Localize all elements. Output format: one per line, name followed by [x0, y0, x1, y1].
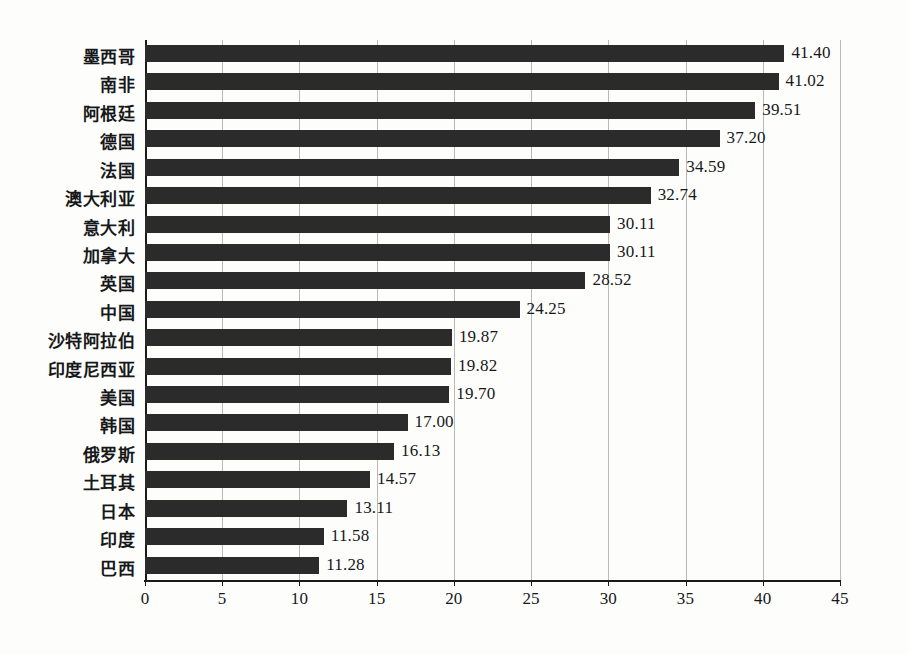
- bar-row: 11.58: [145, 523, 840, 551]
- bar-value-label: 13.11: [354, 498, 393, 518]
- bar-row: 30.11: [145, 211, 840, 239]
- category-label: 印度: [0, 526, 135, 551]
- category-label: 英国: [0, 270, 135, 295]
- bar-row: 41.40: [145, 40, 840, 68]
- bar-value-label: 39.51: [762, 100, 801, 120]
- category-label: 印度尼西亚: [0, 356, 135, 381]
- x-axis-tick: [531, 580, 532, 586]
- gridline: [840, 40, 841, 580]
- bar[interactable]: [145, 73, 779, 90]
- bar-value-label: 41.40: [791, 43, 830, 63]
- bar-value-label: 16.13: [401, 441, 440, 461]
- category-label: 阿根廷: [0, 100, 135, 125]
- bar-row: 19.87: [145, 324, 840, 352]
- bar-value-label: 34.59: [686, 157, 725, 177]
- bar[interactable]: [145, 130, 720, 147]
- x-axis-tick-label: 45: [810, 589, 870, 609]
- x-axis-tick-label: 15: [347, 589, 407, 609]
- x-axis-tick: [299, 580, 300, 586]
- bar[interactable]: [145, 557, 319, 574]
- bar[interactable]: [145, 414, 408, 431]
- category-label: 墨西哥: [0, 43, 135, 68]
- category-label: 澳大利亚: [0, 185, 135, 210]
- bar[interactable]: [145, 159, 679, 176]
- category-label: 南非: [0, 71, 135, 96]
- bar[interactable]: [145, 301, 520, 318]
- bar-value-label: 41.02: [786, 71, 825, 91]
- x-axis-line: [144, 580, 841, 582]
- bar[interactable]: [145, 471, 370, 488]
- bar[interactable]: [145, 528, 324, 545]
- bar[interactable]: [145, 500, 347, 517]
- bar-row: 28.52: [145, 267, 840, 295]
- bar[interactable]: [145, 244, 610, 261]
- bar-row: 24.25: [145, 296, 840, 324]
- bar-row: 34.59: [145, 154, 840, 182]
- category-label: 韩国: [0, 412, 135, 437]
- bar-row: 11.28: [145, 552, 840, 580]
- x-axis-tick: [763, 580, 764, 586]
- bar-row: 19.70: [145, 381, 840, 409]
- x-axis-tick-label: 5: [192, 589, 252, 609]
- bar-row: 14.57: [145, 466, 840, 494]
- x-axis-tick-label: 40: [733, 589, 793, 609]
- bar-value-label: 17.00: [415, 412, 454, 432]
- category-label: 日本: [0, 498, 135, 523]
- x-axis-tick: [377, 580, 378, 586]
- category-axis: 墨西哥南非阿根廷德国法国澳大利亚意大利加拿大英国中国沙特阿拉伯印度尼西亚美国韩国…: [0, 40, 135, 580]
- bar-value-label: 19.70: [456, 384, 495, 404]
- category-label: 意大利: [0, 214, 135, 239]
- bar-value-label: 37.20: [727, 128, 766, 148]
- x-axis-tick-label: 0: [115, 589, 175, 609]
- bar-value-label: 14.57: [377, 469, 416, 489]
- bar-value-label: 32.74: [658, 185, 697, 205]
- category-label: 中国: [0, 299, 135, 324]
- bar-row: 32.74: [145, 182, 840, 210]
- category-label: 土耳其: [0, 469, 135, 494]
- bar-row: 13.11: [145, 495, 840, 523]
- category-label: 德国: [0, 128, 135, 153]
- x-axis-tick-label: 25: [501, 589, 561, 609]
- bar-row: 16.13: [145, 438, 840, 466]
- category-label: 法国: [0, 157, 135, 182]
- x-axis-tick-label: 35: [656, 589, 716, 609]
- bar-row: 17.00: [145, 409, 840, 437]
- category-label: 美国: [0, 384, 135, 409]
- bar[interactable]: [145, 329, 452, 346]
- x-axis-tick-label: 10: [269, 589, 329, 609]
- bar-value-label: 19.87: [459, 327, 498, 347]
- bar-value-label: 11.58: [331, 526, 370, 546]
- x-axis-tick: [840, 580, 841, 586]
- x-axis-tick: [222, 580, 223, 586]
- bar-value-label: 24.25: [527, 299, 566, 319]
- plot-area: 41.4041.0239.5137.2034.5932.7430.1130.11…: [145, 40, 840, 580]
- x-axis-tick-label: 20: [424, 589, 484, 609]
- bar[interactable]: [145, 358, 451, 375]
- bar-value-label: 28.52: [592, 270, 631, 290]
- bar[interactable]: [145, 45, 784, 62]
- x-axis-tick: [454, 580, 455, 586]
- x-axis-tick: [145, 580, 146, 586]
- bar-row: 39.51: [145, 97, 840, 125]
- bar[interactable]: [145, 386, 449, 403]
- bar-row: 41.02: [145, 68, 840, 96]
- bar-value-label: 30.11: [617, 214, 656, 234]
- bar-value-label: 30.11: [617, 242, 656, 262]
- bar[interactable]: [145, 443, 394, 460]
- bar-chart: 墨西哥南非阿根廷德国法国澳大利亚意大利加拿大英国中国沙特阿拉伯印度尼西亚美国韩国…: [0, 0, 908, 654]
- bar-value-label: 19.82: [458, 356, 497, 376]
- bar-value-label: 11.28: [326, 555, 365, 575]
- category-label: 加拿大: [0, 242, 135, 267]
- bar[interactable]: [145, 216, 610, 233]
- bar-row: 37.20: [145, 125, 840, 153]
- category-label: 俄罗斯: [0, 441, 135, 466]
- category-label: 沙特阿拉伯: [0, 327, 135, 352]
- bar-row: 30.11: [145, 239, 840, 267]
- x-axis-tick: [608, 580, 609, 586]
- category-label: 巴西: [0, 555, 135, 580]
- bar[interactable]: [145, 272, 585, 289]
- x-axis-tick-label: 30: [578, 589, 638, 609]
- bar[interactable]: [145, 102, 755, 119]
- bar[interactable]: [145, 187, 651, 204]
- bar-row: 19.82: [145, 353, 840, 381]
